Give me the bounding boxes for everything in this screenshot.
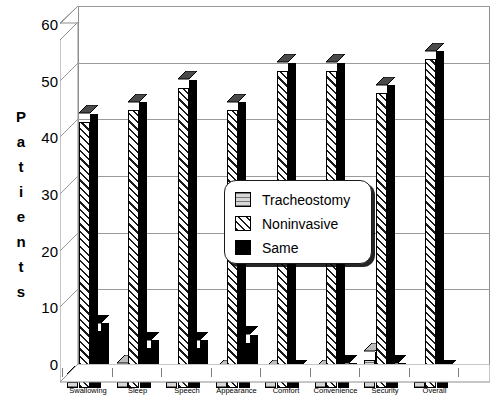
- bar-side-face: [436, 51, 444, 380]
- bar-front-face: [425, 59, 436, 388]
- gridline-depth-connector: [60, 176, 78, 196]
- bar-top-face: [79, 105, 99, 114]
- x-axis-label: Sleep: [128, 386, 147, 395]
- bar-top-face: [376, 77, 396, 86]
- x-axis-tick: [161, 368, 162, 377]
- x-axis-label: Swallowing: [69, 386, 107, 395]
- x-axis-label: Security: [371, 386, 398, 395]
- y-axis-tick-labels: 0102030405060: [30, 0, 58, 418]
- bar-top-face: [140, 332, 160, 341]
- same-swatch: [235, 240, 251, 255]
- chart-legend: TracheostomyNoninvasiveSame: [224, 180, 372, 264]
- x-axis-label: Speech: [174, 386, 199, 395]
- legend-item: Noninvasive: [235, 212, 371, 235]
- x-axis-tick: [112, 368, 113, 377]
- bar-front-face: [79, 122, 90, 388]
- bar-top-face: [178, 71, 198, 80]
- noninvasive-swatch: [235, 216, 251, 231]
- bar-top-face: [227, 94, 247, 103]
- y-axis-tick-label: 20: [32, 242, 58, 259]
- x-axis-label: Convenience: [314, 386, 358, 395]
- x-axis-label: Appearance: [216, 386, 256, 395]
- x-axis-tick: [458, 368, 459, 377]
- bar-top-face: [90, 315, 110, 324]
- x-axis-tick: [409, 368, 410, 377]
- y-axis-tick-label: 50: [32, 72, 58, 89]
- y-axis-tick-label: 40: [32, 129, 58, 146]
- bar: [376, 85, 395, 388]
- gridline: [78, 6, 490, 7]
- legend-item: Same: [235, 236, 371, 259]
- gridline-depth-connector: [60, 63, 78, 83]
- x-axis-label: Overall: [423, 386, 447, 395]
- bar-side-face: [387, 85, 395, 380]
- bar-top-face: [425, 43, 445, 52]
- x-axis-labels: SwallowingSleepSpeechAppearanceComfortCo…: [60, 368, 490, 398]
- gridline-depth-connector: [60, 119, 78, 139]
- bar-chart: Patients 0102030405060 SwallowingSleepSp…: [0, 0, 499, 418]
- bar-top-face: [326, 54, 346, 63]
- legend-item-label: Noninvasive: [262, 217, 338, 231]
- bar-top-face: [239, 326, 259, 335]
- y-axis-tick-label: 0: [32, 356, 58, 373]
- x-axis-tick: [260, 368, 261, 377]
- x-axis-tick: [310, 368, 311, 377]
- gridline-depth-connector: [60, 289, 78, 309]
- x-axis-tick: [211, 368, 212, 377]
- tracheostomy-swatch: [235, 192, 251, 207]
- bar-top-face: [387, 355, 407, 364]
- bar-front-face: [128, 110, 139, 388]
- bar-top-face: [277, 54, 297, 63]
- y-axis-tick-label: 60: [32, 16, 58, 33]
- x-axis-label: Comfort: [273, 386, 300, 395]
- bar-top-face: [189, 332, 209, 341]
- x-axis-tick: [359, 368, 360, 377]
- y-axis-tick-label: 30: [32, 186, 58, 203]
- bar-top-face: [128, 94, 148, 103]
- bar-front-face: [376, 93, 387, 388]
- y-axis-tick-label: 10: [32, 299, 58, 316]
- bar-front-face: [178, 88, 189, 388]
- legend-item-label: Same: [262, 241, 299, 255]
- bar-top-face: [338, 355, 358, 364]
- bar: [425, 51, 444, 388]
- gridline-depth-connector: [60, 233, 78, 253]
- legend-item-label: Tracheostomy: [262, 193, 350, 207]
- x-axis-tick: [62, 368, 63, 377]
- gridline-depth-connector: [60, 6, 78, 26]
- legend-item: Tracheostomy: [235, 188, 371, 211]
